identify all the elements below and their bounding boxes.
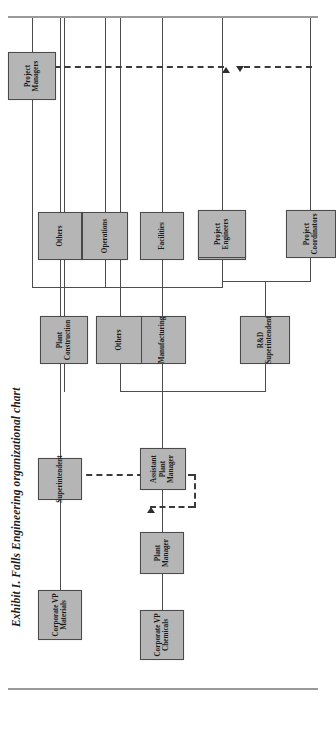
- spine-left: [120, 391, 265, 392]
- node-asst-plant-manager-line2: Plant Manager: [159, 450, 176, 488]
- node-project-managers-line1: Project: [24, 61, 32, 92]
- node-plant-construction-line1: Plant: [56, 320, 64, 360]
- node-project-engineers-line1: Project: [214, 219, 222, 250]
- arrow-coordination-lower-end: [236, 66, 244, 72]
- node-project-managers-line2: Managers: [32, 61, 40, 92]
- node-plant-construction-line2: Construction: [64, 320, 72, 360]
- lead-construction: [222, 18, 223, 212]
- node-project-coordinators-line1: Project: [303, 213, 311, 254]
- stub-facilities: [162, 260, 163, 288]
- lead-facilities: [162, 18, 163, 212]
- node-manufacturing[interactable]: Manufacturing: [138, 316, 186, 364]
- edge-vpchem-plantmgr: [162, 574, 163, 610]
- edge-asstmgr-spine: [162, 392, 163, 448]
- dashed-coordination-upper: [34, 66, 224, 68]
- node-facilities[interactable]: Facilities: [140, 212, 184, 260]
- node-superintendent[interactable]: Superintendent: [38, 458, 82, 500]
- node-others-left-line1: Others: [115, 329, 123, 350]
- org-chart: Corporate VP Chemicals Corporate VP Mate…: [0, 0, 326, 708]
- node-project-coordinators[interactable]: Project Coordinators: [286, 210, 336, 258]
- stub-plant-construction: [64, 364, 65, 392]
- frame-rule-bottom: [8, 17, 318, 19]
- dashed-superintendent-across: [194, 474, 196, 508]
- node-operations-line1: Operations: [101, 219, 109, 253]
- node-plant-manager[interactable]: Plant Manager: [140, 532, 184, 574]
- node-rd-superintendent-line1: R&D: [257, 316, 265, 364]
- stub-project-coordinators: [310, 258, 311, 282]
- stub-rd-superintendent: [265, 364, 266, 392]
- stub-manufacturing: [162, 364, 163, 392]
- node-rd-superintendent[interactable]: R&D Superintendent: [240, 316, 290, 364]
- node-plant-construction[interactable]: Plant Construction: [40, 316, 88, 364]
- stub-others-left: [120, 364, 121, 392]
- node-corp-vp-chemicals[interactable]: Corporate VP Chemicals: [140, 610, 184, 660]
- node-project-engineers[interactable]: Project Engineers: [198, 210, 246, 258]
- edge-rd-to-subspine: [265, 282, 266, 316]
- node-corp-vp-materials-line2: Materials: [60, 593, 68, 636]
- arrow-coordination-upper-end: [222, 67, 230, 73]
- node-others-right-line1: Others: [56, 225, 64, 246]
- node-asst-plant-manager[interactable]: Assistant Plant Manager: [140, 448, 186, 490]
- stub-construction: [222, 260, 223, 288]
- node-corp-vp-chemicals-line1: Corporate VP: [154, 613, 162, 656]
- node-project-managers[interactable]: Project Managers: [8, 52, 56, 100]
- node-rd-superintendent-line2: Superintendent: [265, 316, 273, 364]
- node-project-engineers-line2: Engineers: [222, 219, 230, 250]
- arrow-to-asst-plant-manager: [147, 507, 155, 513]
- dashed-down-to-asstmgr: [150, 506, 194, 508]
- node-others-right[interactable]: Others: [38, 212, 82, 260]
- stub-others-right: [60, 260, 61, 288]
- node-plant-manager-line1: Plant Manager: [154, 534, 171, 572]
- node-project-coordinators-line2: Coordinators: [311, 213, 319, 254]
- frame-rule-top: [8, 689, 318, 691]
- edge-vpmat-superintendent: [60, 500, 61, 590]
- edge-superintendent-spine: [60, 398, 61, 458]
- edge-plantmgr-asstmgr: [162, 490, 163, 532]
- node-manufacturing-line1: Manufacturing: [158, 317, 166, 364]
- dashed-coordination-lower: [244, 66, 312, 68]
- node-corp-vp-materials[interactable]: Corporate VP Materials: [38, 590, 82, 640]
- lead-operations: [105, 18, 106, 212]
- stub-operations: [105, 260, 106, 288]
- node-operations[interactable]: Operations: [82, 212, 128, 260]
- lead-project-managers: [32, 18, 33, 52]
- node-superintendent-line1: Superintendent: [56, 455, 64, 503]
- node-others-left[interactable]: Others: [96, 316, 142, 364]
- lead-others-left: [120, 18, 121, 316]
- node-asst-plant-manager-line1: Assistant: [150, 450, 158, 488]
- lead-project-coordinators: [310, 18, 311, 210]
- stub-project-managers: [32, 100, 33, 288]
- node-facilities-line1: Facilities: [158, 222, 166, 250]
- spine-rd-children: [222, 281, 310, 282]
- node-corp-vp-materials-line1: Corporate VP: [52, 593, 60, 636]
- lead-others-right: [60, 18, 61, 212]
- lead-plant-construction: [64, 18, 65, 316]
- node-corp-vp-chemicals-line2: Chemicals: [162, 613, 170, 656]
